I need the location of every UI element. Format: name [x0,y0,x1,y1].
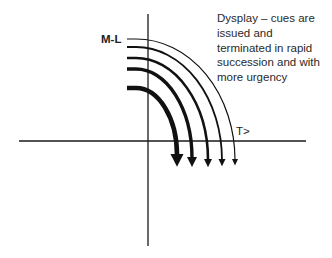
x-axis-label: T> [236,125,250,137]
cue-arc [127,88,177,155]
arrowhead-icon [204,159,212,167]
annotation-line: terminated in rapid [217,41,332,56]
annotation-line: Dysplay – cues are [217,11,332,26]
annotation-line: issued and [217,26,332,41]
arrowhead-icon [232,159,238,165]
arrowhead-icon [219,159,226,166]
arrowhead-icon [171,154,184,167]
annotation-text: Dysplay – cues are issued and terminated… [217,11,332,85]
annotation-line: more urgency [217,70,332,85]
annotation-line: succession and with [217,55,332,70]
y-axis-label: M-L [101,33,121,45]
arrowhead-icon [187,157,197,167]
